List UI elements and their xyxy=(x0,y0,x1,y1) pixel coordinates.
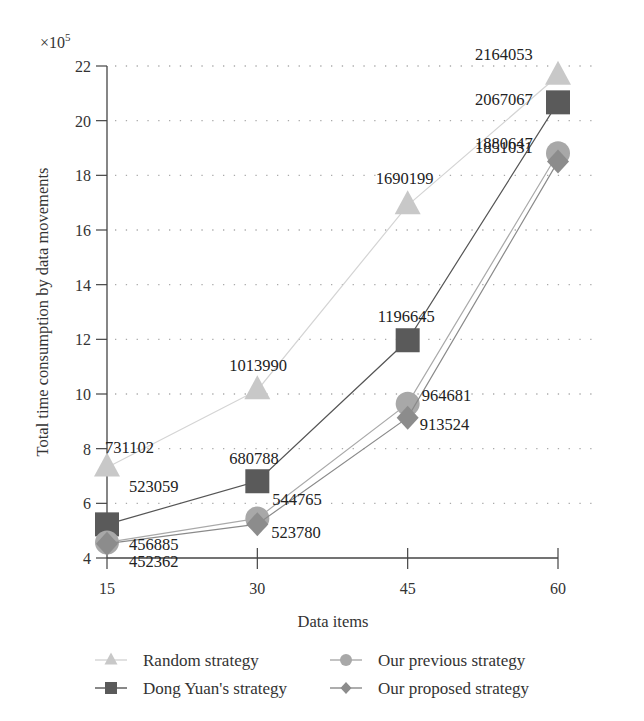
data-label: 731102 xyxy=(105,438,154,457)
legend: Random strategyDong Yuan's strategyOur p… xyxy=(95,651,530,698)
legend-label: Our previous strategy xyxy=(378,651,526,670)
data-label: 1690199 xyxy=(376,169,434,188)
x-tick-label: 30 xyxy=(249,580,265,597)
legend-label: Dong Yuan's strategy xyxy=(143,679,288,698)
data-label: 1013990 xyxy=(229,356,287,375)
legend-item: Dong Yuan's strategy xyxy=(95,679,288,698)
y-tick-label: 10 xyxy=(75,386,91,403)
data-label: 2067067 xyxy=(475,90,533,109)
gridlines xyxy=(115,66,600,503)
y-axis-ticks: 46810121416182022 xyxy=(75,58,107,567)
data-label: 964681 xyxy=(422,386,472,405)
data-label: 523780 xyxy=(271,523,321,542)
legend-item: Random strategy xyxy=(95,651,259,670)
x-axis-title: Data items xyxy=(297,612,368,631)
y-multiplier: ×105 xyxy=(40,31,71,51)
data-label: 452362 xyxy=(129,552,179,571)
data-label: 1851031 xyxy=(475,138,533,157)
y-tick-label: 22 xyxy=(75,58,91,75)
y-tick-label: 18 xyxy=(75,167,91,184)
data-label: 2164053 xyxy=(475,45,533,64)
data-label: 1196645 xyxy=(378,307,435,326)
legend-label: Our proposed strategy xyxy=(378,679,530,698)
data-labels: 7311021013990169019921640535230596807881… xyxy=(105,45,533,571)
data-label: 523059 xyxy=(129,477,179,496)
x-tick-label: 15 xyxy=(99,580,115,597)
y-tick-label: 14 xyxy=(75,277,91,294)
y-tick-label: 8 xyxy=(83,441,91,458)
y-tick-label: 4 xyxy=(83,550,91,567)
x-tick-label: 45 xyxy=(400,580,416,597)
y-axis-title: Total time consumption by data movements xyxy=(33,168,52,457)
y-tick-label: 12 xyxy=(75,331,91,348)
legend-item: Our previous strategy xyxy=(330,651,526,670)
legend-label: Random strategy xyxy=(143,651,259,670)
y-tick-label: 20 xyxy=(75,113,91,130)
y-tick-label: 16 xyxy=(75,222,91,239)
legend-item: Our proposed strategy xyxy=(330,679,530,698)
series-triangle xyxy=(94,61,571,477)
data-label: 680788 xyxy=(229,449,278,468)
data-label: 544765 xyxy=(272,490,322,509)
data-label: 913524 xyxy=(420,415,470,434)
x-tick-label: 60 xyxy=(550,580,566,597)
line-chart: 46810121416182022 15304560 7311021013990… xyxy=(0,0,644,721)
y-tick-label: 6 xyxy=(83,495,91,512)
